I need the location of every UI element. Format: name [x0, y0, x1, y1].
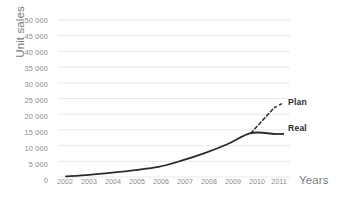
x-axis-tick-label: 2003: [76, 178, 102, 186]
series-line-plan: [251, 108, 274, 133]
x-axis-tick-label: 2006: [148, 178, 174, 186]
series-leader-plan: [274, 102, 284, 108]
x-axis-tick-label: 2007: [172, 178, 198, 186]
x-axis-tick-label: 2008: [196, 178, 222, 186]
x-axis-tick-label: 2005: [124, 178, 150, 186]
x-axis-tick-label: 2009: [220, 178, 246, 186]
series-label-plan: Plan: [288, 97, 307, 107]
chart-container: Unit sales Years 50 000 45 000 40 000 35…: [0, 0, 340, 204]
x-axis-tick-label: 2004: [100, 178, 126, 186]
x-axis-tick-label: 2011: [266, 178, 292, 186]
series-label-real: Real: [288, 123, 307, 133]
x-axis-tick-label: 2002: [52, 178, 78, 186]
series-line-real: [66, 132, 274, 176]
